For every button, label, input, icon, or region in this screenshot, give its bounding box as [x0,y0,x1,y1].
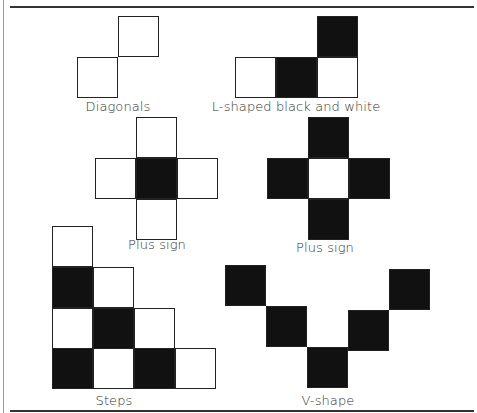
pattern-figure: DiagonalsL-shaped black and whitePlus si… [0,0,477,413]
pattern-label: Plus sign [296,240,354,255]
white-square [52,226,93,267]
white-square [95,158,136,199]
white-square [118,16,159,57]
black-square [307,347,348,388]
white-square [317,57,358,98]
black-square [348,310,389,351]
pattern-label: L-shaped black and white [212,99,381,114]
black-square [134,348,175,389]
pattern-label: Steps [96,393,133,408]
black-square [52,348,93,389]
white-square [175,348,216,389]
white-square [136,117,177,158]
black-square [93,308,134,349]
black-square [389,269,430,310]
black-square [317,16,358,57]
black-square [308,199,349,240]
pattern-label: Diagonals [86,99,151,114]
black-square [267,158,308,199]
white-square [177,158,218,199]
pattern-label: V-shape [302,393,355,408]
white-square [93,267,134,308]
black-square [52,267,93,308]
black-square [349,158,390,199]
white-square [308,158,349,199]
black-square [276,57,317,98]
black-square [136,158,177,199]
black-square [266,306,307,347]
pattern-label: Plus sign [128,237,186,252]
white-square [136,199,177,240]
white-square [235,57,276,98]
black-square [225,265,266,306]
white-square [134,308,175,349]
white-square [77,57,118,98]
black-square [308,117,349,158]
white-square [93,348,134,389]
white-square [52,308,93,349]
